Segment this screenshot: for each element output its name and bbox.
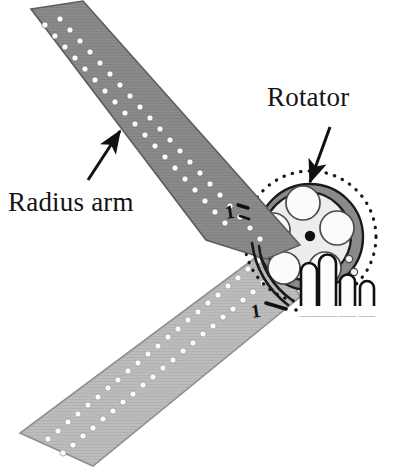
prong-2	[319, 255, 336, 316]
upper-radius-arm	[31, 1, 300, 259]
rotator-hole-2	[320, 211, 354, 245]
rotator-label: Rotator	[267, 82, 349, 112]
rotator-hole-1	[286, 186, 320, 220]
index-marker-lower-dot	[294, 308, 298, 312]
lower-arm-hole-row-outer	[60, 263, 286, 456]
rotator-center-pivot	[305, 231, 315, 241]
mechanism-diagram: 1 1 Rotator Radius arm	[0, 0, 396, 475]
figure-root: 1 1 Rotator Radius arm	[0, 0, 396, 475]
radius-arm-leader-line	[88, 131, 120, 180]
prong-base	[299, 306, 377, 316]
upper-arm-body	[31, 1, 300, 259]
radius-arm-label: Radius arm	[8, 187, 134, 217]
